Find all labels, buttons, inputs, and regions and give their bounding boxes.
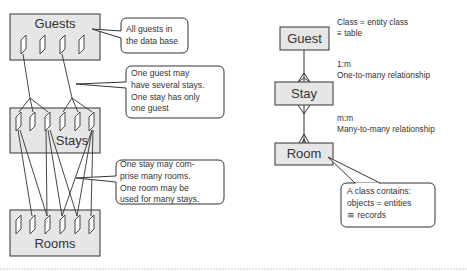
callout-class-contains: A class contains: objects = entities ≅ r… [347,186,411,221]
guests-set-label: Guests [10,16,100,31]
callout-line: All guests in [126,24,178,36]
guest-entity-label: Guest [280,31,329,46]
annotation-line: Many-to-many relationship [337,124,435,135]
stays-set-label: Stays [52,133,92,148]
annotation-many-to-many: m:m Many-to-many relationship [337,113,435,134]
callout-guest-stays: One guest may have several stays. One st… [131,68,205,115]
annotation-line: Class = entity class [337,17,408,28]
room-entity-label: Room [275,146,333,161]
annotation-one-to-many: 1:m One-to-many relationship [337,59,430,80]
annotation-line: m:m [337,113,435,124]
callout-line: the data base [126,36,178,48]
annotation-line: ≡ table [337,28,408,39]
guest-stay-links [19,54,92,112]
callout-line: One room may be [120,183,199,195]
callout-line: A class contains: [347,186,411,198]
callout-line: One stay may com- [120,159,199,171]
callout-line: ≅ records [347,210,411,222]
callout-line: used for many stays. [120,194,199,206]
rooms-set-label: Rooms [10,236,100,251]
callout-all-guests: All guests in the data base [126,24,178,48]
annotation-line: One-to-many relationship [337,70,430,81]
callout-line: one guest [131,103,205,115]
callout-stay-rooms: One stay may com- prise many rooms. One … [120,159,199,206]
callout-line: One guest may [131,68,205,80]
callout-line: prise many rooms. [120,171,199,183]
callout-line: One stay has only [131,92,205,104]
callout-line: objects = entities [347,198,411,210]
annotation-line: 1:m [337,59,430,70]
annotation-class-definition: Class = entity class ≡ table [337,17,408,38]
callout-line: have several stays. [131,80,205,92]
stay-entity-label: Stay [275,86,333,101]
